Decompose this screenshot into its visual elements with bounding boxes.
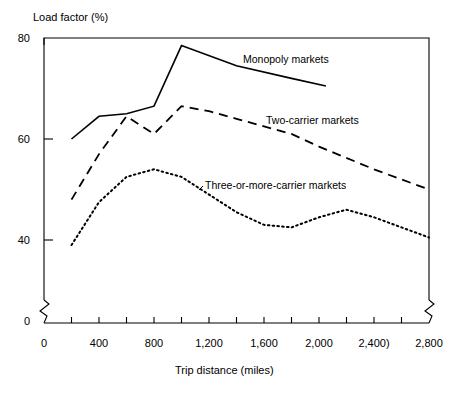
chart-figure: Load factor (%) Trip distance (miles) 80… <box>0 0 471 396</box>
plot-frame <box>44 38 429 300</box>
series-line-two-carrier-markets <box>72 106 430 199</box>
y-axis-break-symbol-left <box>40 300 49 323</box>
data-series-group <box>72 46 430 245</box>
y-axis-break-symbol-right <box>425 300 434 323</box>
series-line-three-or-more-carrier-markets <box>72 169 430 245</box>
plot-area <box>0 0 471 396</box>
axes <box>40 38 434 323</box>
x-axis-ticks <box>72 317 402 323</box>
y-axis-ticks <box>44 38 53 240</box>
series-line-monopoly-markets <box>72 46 326 139</box>
